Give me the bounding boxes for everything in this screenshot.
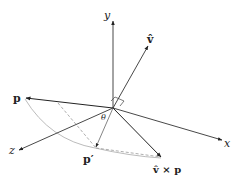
rotation-diagram: y v̂ p x z θ p′ v̂ × p [0,0,242,184]
z-axis-label: z [8,144,15,157]
x-axis-label: x [224,137,231,150]
dashed-line-cross-projection [96,148,161,157]
v-hat-label: v̂ [146,33,154,46]
p-vector [26,98,113,108]
dashed-line-p-projection [58,103,96,148]
z-axis [19,108,113,150]
rotation-arc [25,99,161,158]
theta-label: θ [101,113,106,122]
p-prime-label: p′ [83,153,94,166]
y-axis-label: y [103,9,111,22]
p-label: p [13,92,21,105]
cross-product-label: v̂ × p [152,164,181,175]
